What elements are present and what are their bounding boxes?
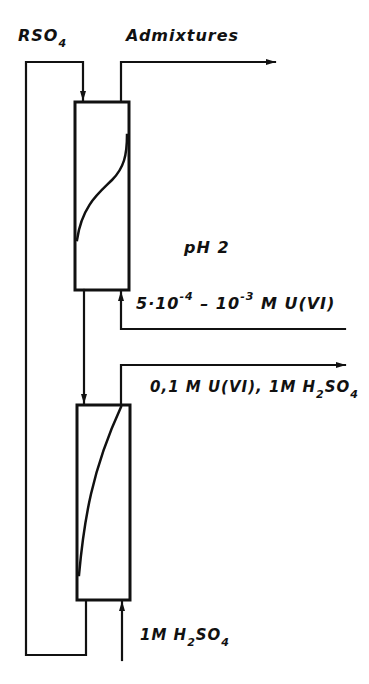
eluate-text: 0,1 M U(VI), 1M H	[150, 378, 316, 396]
feed-exp-1: -4	[179, 290, 193, 303]
column-2	[77, 405, 130, 600]
rso4-subscript: 4	[58, 37, 67, 50]
column-1-profile-curve	[77, 135, 127, 240]
feed-coef: 5·10	[136, 294, 179, 313]
eluent-text-2: SO	[196, 626, 222, 644]
column-1	[75, 102, 129, 290]
eluent-sub-1: 2	[187, 636, 196, 649]
eluent-text: 1M H	[140, 626, 187, 644]
eluate-label: 0,1 M U(VI), 1M H2SO4	[150, 380, 359, 395]
eluate-sub-1: 2	[316, 388, 325, 401]
eluate-text-2: SO	[325, 378, 351, 396]
eluent-sub-2: 4	[221, 636, 230, 649]
eluate-sub-2: 4	[350, 388, 359, 401]
ph-label: pH 2	[184, 240, 230, 256]
rso4-label: RSO4	[18, 28, 67, 44]
rso4-text: RSO	[18, 26, 58, 45]
column-2-profile-curve	[79, 407, 121, 575]
feed-label: 5·10-4 – 10-3 M U(VI)	[136, 296, 335, 312]
eluent-label: 1M H2SO4	[140, 628, 230, 643]
admixtures-label: Admixtures	[126, 28, 239, 44]
feed-range: – 10	[194, 294, 240, 313]
feed-exp-2: -3	[240, 290, 254, 303]
admixtures-outlet-line	[121, 62, 275, 102]
feed-species: M U(VI)	[254, 294, 335, 313]
flow-diagram	[0, 0, 369, 684]
